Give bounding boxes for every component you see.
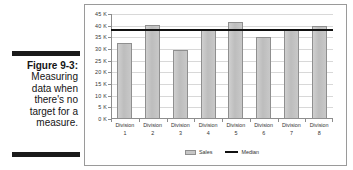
x-axis-label-line: 1 xyxy=(111,129,139,137)
x-axis-label-line: Division xyxy=(277,121,305,129)
x-axis-label-line: Division xyxy=(222,121,250,129)
bar xyxy=(173,50,188,119)
bar xyxy=(228,22,243,119)
legend-item-sales: Sales xyxy=(185,149,213,155)
figure-screenshot: Figure 9-3: Measuring data when there's … xyxy=(0,0,353,170)
x-axis-label-line: 7 xyxy=(277,129,305,137)
x-axis-label: Division8 xyxy=(305,121,333,137)
y-axis-tick-label: 25 K xyxy=(95,58,107,64)
x-axis-label-line: 3 xyxy=(166,129,194,137)
x-axis-label-line: 2 xyxy=(139,129,167,137)
bar xyxy=(256,37,271,119)
x-axis-label: Division3 xyxy=(166,121,194,137)
y-axis-tick-label: 45 K xyxy=(95,11,107,17)
x-axis-label-line: 5 xyxy=(222,129,250,137)
x-axis-label-line: Division xyxy=(166,121,194,129)
y-axis-tick-label: 0 K xyxy=(98,116,107,122)
caption-line-4: target for a xyxy=(0,106,78,117)
bar xyxy=(201,30,216,119)
caption-line-2: data when xyxy=(0,83,78,94)
x-axis-label: Division6 xyxy=(250,121,278,137)
chart-frame: 45 K40 K35 K30 K25 K20 K15 K10 K5 K0 K D… xyxy=(84,4,347,166)
x-axis-label: Division1 xyxy=(111,121,139,137)
x-axis-label-line: Division xyxy=(111,121,139,129)
x-axis-label-line: 4 xyxy=(194,129,222,137)
x-axis-label-line: Division xyxy=(305,121,333,129)
x-axis-label-line: Division xyxy=(250,121,278,129)
x-axis-label: Division7 xyxy=(277,121,305,137)
caption-rule-bottom xyxy=(12,152,80,157)
x-axis-label: Division4 xyxy=(194,121,222,137)
y-axis-tick-label: 40 K xyxy=(95,23,107,29)
y-axis-tick-label: 30 K xyxy=(95,46,107,52)
x-axis-label-line: 6 xyxy=(250,129,278,137)
median-reference-line xyxy=(111,29,333,31)
y-axis-tick-label: 20 K xyxy=(95,69,107,75)
chart-legend: Sales Median xyxy=(111,146,333,158)
caption-line-5: measure. xyxy=(0,117,78,128)
figure-caption-text: Figure 9-3: Measuring data when there's … xyxy=(0,60,78,128)
y-axis-tick-label: 35 K xyxy=(95,34,107,40)
legend-bar-swatch-icon xyxy=(185,150,196,155)
y-axis-tick-label: 15 K xyxy=(95,81,107,87)
legend-line-swatch-icon xyxy=(225,151,238,153)
legend-label-median: Median xyxy=(241,149,259,155)
bar xyxy=(284,30,299,119)
y-axis-tick-label: 5 K xyxy=(98,104,107,110)
x-axis-label-line: Division xyxy=(194,121,222,129)
x-axis-label-line: 8 xyxy=(305,129,333,137)
caption-line-3: there's no xyxy=(0,94,78,105)
bar xyxy=(145,25,160,119)
figure-number: Figure 9-3: xyxy=(0,60,78,71)
x-axis-label: Division5 xyxy=(222,121,250,137)
plot-area: 45 K40 K35 K30 K25 K20 K15 K10 K5 K0 K xyxy=(111,14,333,119)
caption-rule-top xyxy=(12,51,80,56)
y-axis-tick-label: 10 K xyxy=(95,93,107,99)
legend-label-sales: Sales xyxy=(199,149,213,155)
legend-item-median: Median xyxy=(225,149,259,155)
caption-line-1: Measuring xyxy=(0,71,78,82)
x-axis-labels: Division1Division2Division3Division4Divi… xyxy=(111,121,333,143)
bar xyxy=(117,43,132,119)
bar xyxy=(312,26,327,119)
figure-caption-block: Figure 9-3: Measuring data when there's … xyxy=(0,0,82,170)
x-axis-label: Division2 xyxy=(139,121,167,137)
x-axis-label-line: Division xyxy=(139,121,167,129)
